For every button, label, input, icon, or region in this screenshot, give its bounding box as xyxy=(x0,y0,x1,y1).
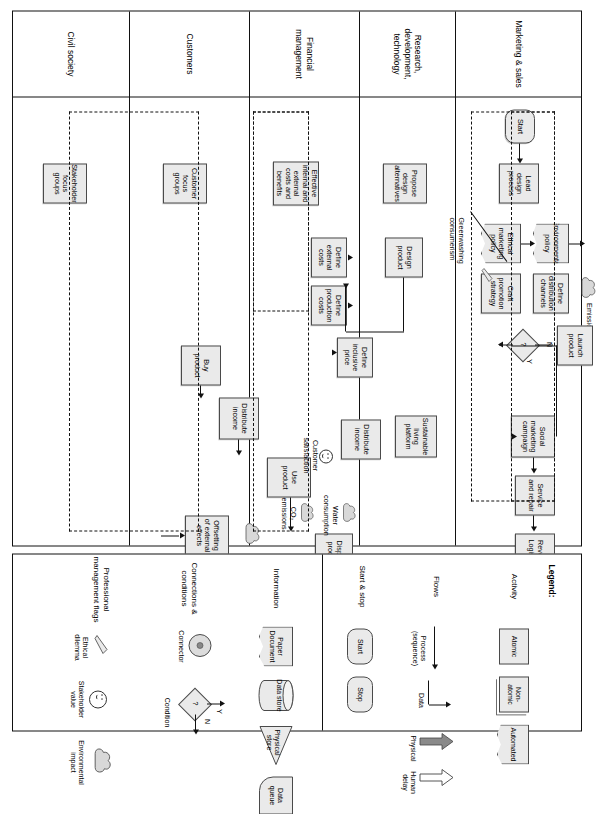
legend-category-information: Information xyxy=(271,558,281,618)
label-water-consumption: Water consumption xyxy=(322,493,339,537)
lane-label-civil: Civil society xyxy=(13,11,129,97)
legend-item-data-store: Data store xyxy=(275,676,283,714)
node-distribute-income-financial[interactable]: Distribute income xyxy=(341,419,381,459)
environmental-impact-cloud-water xyxy=(339,501,357,523)
legend-data-queue-icon: Data queue xyxy=(259,776,293,814)
legend-title: Legend: xyxy=(547,564,557,597)
legend-item-data: Data xyxy=(417,680,425,720)
node-sustainable-living-platform[interactable]: Sustainable living platform xyxy=(395,415,437,457)
lane-label-financial: Financial management xyxy=(250,11,359,97)
lane-body-research: Propose design alternatives Design produ… xyxy=(360,97,455,545)
node-define-inclusive-price[interactable]: Define inclusive price xyxy=(337,337,373,377)
legend-item-ethical-dilemma: Ethical dilemma xyxy=(72,624,89,670)
legend-item-non-atomic: Non-atomic xyxy=(499,676,529,712)
legend-environmental-impact-icon xyxy=(89,746,113,774)
legend-item-process-sequence: Process (sequence) xyxy=(410,620,427,676)
legend-item-automated: Automated xyxy=(497,724,529,764)
legend-connector-icon xyxy=(183,632,213,658)
legend-condition-yes: Y xyxy=(214,706,223,716)
node-launch-product[interactable]: Launch product xyxy=(557,325,593,365)
legend-item-connector: Connector xyxy=(177,624,185,668)
legend-item-physical-store: Physical store xyxy=(264,724,281,760)
legend-item-start: Start xyxy=(347,628,373,664)
legend-item-condition: Condition xyxy=(163,684,171,740)
label-greenwashing-consumerism: Greenwashing consumerism xyxy=(448,217,465,307)
legend-category-professional-flags: Professional management flags xyxy=(91,554,111,624)
legend-condition-icon: ? Y N xyxy=(173,682,217,744)
dashbox-usage-impacts xyxy=(69,111,199,531)
legend-physical-arrow-icon xyxy=(415,732,453,750)
legend-panel: Legend: Activity Atomic Non-atomic Autom… xyxy=(12,553,582,731)
stakeholder-value-icon-customer xyxy=(319,449,333,463)
legend-item-automated-shape: Automated xyxy=(497,724,529,764)
environmental-impact-cloud-emissions xyxy=(577,275,597,299)
legend-item-human-delay: Human delay xyxy=(400,762,417,802)
legend-category-start-stop: Start & stop xyxy=(357,558,367,614)
legend-item-environmental-impact: Environmental impact xyxy=(68,734,85,790)
legend-human-delay-arrow-icon xyxy=(415,768,453,786)
legend-item-data-queue: Data queue xyxy=(259,776,293,814)
legend-category-flows: Flows xyxy=(431,558,441,614)
dashbox-focus-groups-inner xyxy=(253,111,309,311)
legend-data-store-icon: Data store xyxy=(257,676,295,714)
lane-label-marketing: Marketing & sales xyxy=(456,11,581,97)
legend-category-activity: Activity xyxy=(509,558,519,614)
lane-label-research: Research, development, technology xyxy=(360,11,455,97)
legend-condition-mark: ? xyxy=(185,692,207,714)
node-define-external-costs[interactable]: Define external costs xyxy=(311,237,347,277)
legend-stakeholder-value-icon xyxy=(89,690,107,708)
node-design-product[interactable]: Design product xyxy=(385,237,423,277)
lane-research: Research, development, technology Propos… xyxy=(359,11,455,545)
legend-condition-no: N xyxy=(202,716,211,726)
dashbox-reverse-logistics xyxy=(511,111,555,501)
legend-item-paper-document: Paper Document xyxy=(259,626,293,666)
node-propose-design-alternatives[interactable]: Propose design alternatives xyxy=(383,163,427,203)
lane-label-customers: Customers xyxy=(130,11,249,97)
legend-item-stakeholder-value: Stakeholder value xyxy=(68,674,85,724)
node-define-production-costs[interactable]: Define production costs xyxy=(311,285,347,325)
legend-item-atomic: Atomic xyxy=(499,628,529,664)
legend-item-stop: Stop xyxy=(347,676,373,712)
legend-category-connections: Connections & conditions xyxy=(179,554,199,622)
legend-physical-store-icon: Physical store xyxy=(257,724,295,766)
swimlane-diagram: Marketing & sales Start Lead design proc… xyxy=(12,10,582,546)
legend-ethical-dilemma-icon xyxy=(89,634,109,656)
